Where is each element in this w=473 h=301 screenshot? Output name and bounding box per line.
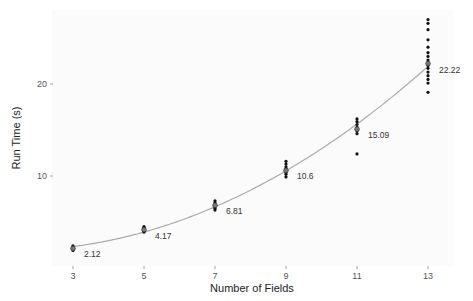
data-point bbox=[426, 18, 429, 21]
x-tick-label: 11 bbox=[352, 271, 361, 281]
data-point bbox=[284, 160, 287, 163]
data-point bbox=[355, 117, 358, 120]
x-tick-label: 7 bbox=[212, 271, 217, 281]
data-point bbox=[426, 70, 429, 73]
y-axis: 1020 bbox=[37, 79, 53, 181]
data-point bbox=[284, 175, 287, 178]
y-tick-label: 10 bbox=[37, 171, 47, 181]
mean-marker bbox=[213, 203, 218, 208]
x-tick-label: 9 bbox=[283, 271, 288, 281]
y-tick-label: 20 bbox=[37, 79, 47, 89]
data-point bbox=[426, 38, 429, 41]
data-point bbox=[426, 22, 429, 25]
data-point bbox=[355, 123, 358, 126]
x-axis-title: Number of Fields bbox=[210, 282, 294, 294]
x-tick-label: 5 bbox=[141, 271, 146, 281]
data-point bbox=[355, 152, 358, 155]
mean-label: 15.09 bbox=[368, 130, 390, 140]
mean-marker bbox=[355, 127, 360, 132]
mean-marker bbox=[284, 168, 289, 173]
data-point bbox=[426, 51, 429, 54]
mean-marker bbox=[426, 61, 431, 66]
x-axis: 35791113 bbox=[70, 266, 433, 281]
data-point bbox=[213, 199, 216, 202]
x-tick-label: 3 bbox=[70, 271, 75, 281]
data-point bbox=[426, 67, 429, 70]
data-point bbox=[355, 132, 358, 135]
data-point bbox=[426, 46, 429, 49]
panel-background bbox=[52, 10, 454, 266]
y-axis-title: Run Time (s) bbox=[10, 107, 22, 170]
mean-label: 4.17 bbox=[155, 231, 172, 241]
data-point bbox=[284, 162, 287, 165]
mean-label: 6.81 bbox=[226, 206, 243, 216]
mean-label: 10.6 bbox=[297, 171, 314, 181]
data-point bbox=[426, 91, 429, 94]
mean-label: 2.12 bbox=[84, 249, 101, 259]
mean-marker bbox=[142, 227, 147, 232]
mean-label: 22.22 bbox=[439, 65, 461, 75]
data-point bbox=[426, 28, 429, 31]
data-point bbox=[426, 74, 429, 77]
data-point bbox=[426, 55, 429, 58]
data-point bbox=[426, 78, 429, 81]
x-tick-label: 13 bbox=[423, 271, 433, 281]
run-time-chart: 1020 35791113 2.124.176.8110.615.0922.22… bbox=[0, 0, 473, 301]
data-point bbox=[426, 81, 429, 84]
data-point bbox=[355, 120, 358, 123]
mean-marker bbox=[71, 246, 76, 251]
